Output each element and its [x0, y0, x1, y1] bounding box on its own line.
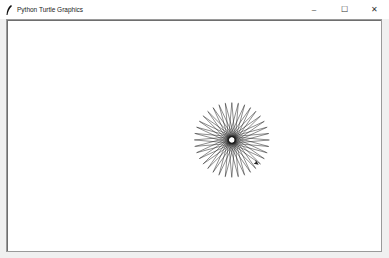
window-title: Python Turtle Graphics	[17, 6, 83, 13]
minimize-button[interactable]: –	[299, 0, 329, 19]
minimize-icon: –	[312, 5, 316, 14]
close-icon: ✕	[371, 5, 378, 14]
starburst-drawing	[194, 102, 270, 177]
window-controls: – ☐ ✕	[299, 0, 389, 19]
maximize-icon: ☐	[341, 5, 348, 14]
maximize-button[interactable]: ☐	[329, 0, 359, 19]
drawing-surface	[7, 20, 381, 251]
turtle-canvas[interactable]	[6, 19, 382, 252]
turtle-window: Python Turtle Graphics – ☐ ✕	[0, 0, 389, 258]
close-button[interactable]: ✕	[359, 0, 389, 19]
feather-icon	[4, 4, 14, 16]
title-bar[interactable]: Python Turtle Graphics – ☐ ✕	[0, 0, 389, 19]
